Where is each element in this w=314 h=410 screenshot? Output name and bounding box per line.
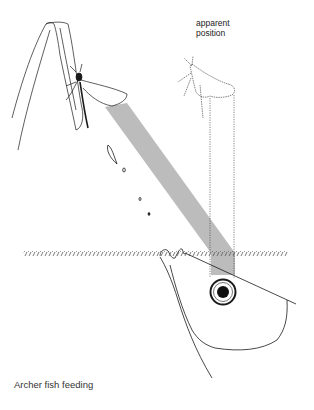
water-surface bbox=[23, 251, 288, 256]
fish-eye bbox=[211, 280, 236, 305]
leaf-stalk bbox=[12, 22, 83, 150]
apparent-position-label: apparent position bbox=[196, 18, 230, 38]
apparent-label-line2: position bbox=[196, 28, 230, 38]
apparent-insect bbox=[178, 56, 235, 118]
apparent-label-line1: apparent bbox=[196, 18, 230, 28]
archer-fish-diagram bbox=[0, 0, 314, 410]
light-beam bbox=[105, 103, 235, 275]
figure-caption: Archer fish feeding bbox=[14, 379, 93, 390]
